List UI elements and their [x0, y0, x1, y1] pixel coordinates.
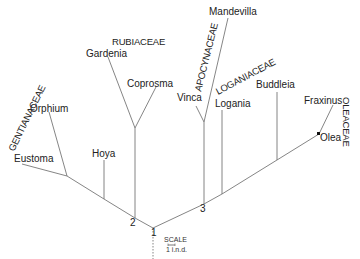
branch-fraxinus	[319, 105, 333, 134]
branch-orphium	[49, 112, 67, 176]
branch-node2-hoya-junction	[104, 199, 135, 218]
node-label-1: 1	[151, 227, 157, 238]
taxon-gardenia: Gardenia	[86, 48, 128, 59]
taxon-mandevilla: Mandevilla	[209, 6, 257, 17]
branch-coprosma	[135, 87, 156, 128]
branch-eustoma	[22, 164, 67, 176]
family-rubiaceae: RUBIACEAE	[112, 36, 165, 47]
branch-node3-logania	[204, 194, 222, 204]
branch-gardenia	[108, 57, 135, 128]
taxon-coprosma: Coprosma	[127, 78, 174, 89]
taxon-fraxinus: Fraxinus	[304, 95, 342, 106]
family-gentianaceae: GENTIANACEAE	[6, 83, 47, 153]
node-label-2: 2	[130, 217, 136, 228]
taxon-hoya: Hoya	[92, 148, 116, 159]
family-loganiaceae: LOGANIACEAE	[214, 56, 277, 97]
taxon-buddleia: Buddleia	[256, 79, 295, 90]
scale-unit: 1 i.n.d.	[166, 246, 187, 253]
phylogenetic-tree: Eustoma Orphium Hoya Gardenia Coprosma V…	[0, 0, 360, 259]
node-label-3: 3	[200, 203, 206, 214]
family-oleaceae: OLEACEAE	[341, 97, 352, 147]
branch-vinca	[196, 106, 204, 122]
branch-root-node3	[153, 204, 204, 228]
taxon-vinca: Vinca	[177, 92, 202, 103]
branch-to-buddleia	[222, 160, 277, 194]
branch-to-oleaceae	[277, 134, 319, 160]
family-apocynaceae: APOCYNACEAE	[192, 22, 220, 93]
taxon-olea: Olea	[320, 132, 342, 143]
taxon-logania: Logania	[215, 98, 251, 109]
taxon-eustoma: Eustoma	[14, 153, 54, 164]
scale-title: SCALE	[164, 236, 187, 243]
branch-to-gentianaceae	[67, 176, 104, 199]
